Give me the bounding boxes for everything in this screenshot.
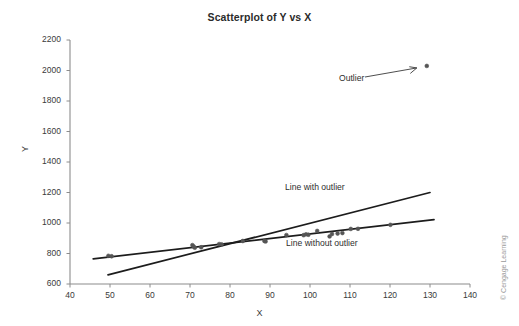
data-points-group	[107, 64, 429, 258]
data-point	[241, 239, 245, 243]
axes-group	[67, 40, 471, 288]
data-point	[307, 233, 311, 237]
data-point	[264, 240, 268, 244]
data-point	[356, 227, 360, 231]
data-point	[341, 231, 345, 235]
scatterplot-figure: Scatterplot of Y vs X Y X 60080010001200…	[0, 0, 519, 326]
outlier-arrow-head-top	[409, 67, 417, 68]
data-point	[285, 233, 289, 237]
data-point	[199, 245, 203, 249]
outlier-arrow-shaft	[365, 68, 417, 77]
outlier-arrow-group	[365, 67, 417, 77]
data-point	[315, 229, 319, 233]
chart-canvas	[0, 0, 519, 326]
regression-lines-group	[93, 193, 434, 275]
outlier-label: Outlier	[339, 73, 364, 83]
data-point	[193, 246, 197, 250]
data-point	[425, 64, 429, 68]
line-without-outlier-label: Line without outlier	[286, 238, 358, 248]
copyright-notice: © Cengage Learning	[500, 235, 507, 300]
data-point	[389, 223, 393, 227]
data-point	[349, 227, 353, 231]
data-point	[220, 242, 224, 246]
data-point	[336, 232, 340, 236]
data-point	[330, 232, 334, 236]
line-with-outlier-label: Line with outlier	[285, 182, 345, 192]
data-point	[110, 254, 114, 258]
regression-line	[108, 193, 430, 275]
